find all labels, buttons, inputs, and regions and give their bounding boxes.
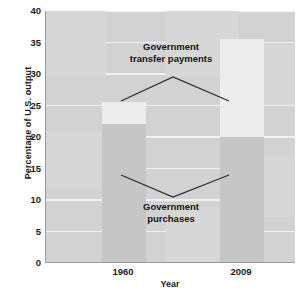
y-axis-tick-5: 5: [13, 227, 41, 237]
annotation-transfers-line1: Government: [96, 41, 246, 53]
y-axis-tick-25: 25: [13, 101, 41, 111]
gridline: [46, 11, 295, 12]
y-axis-tick-30: 30: [13, 69, 41, 79]
chart-figure: Percentage of U.S. output 05101520253035…: [0, 0, 305, 296]
annotation-purchases: Government purchases: [96, 201, 246, 225]
bar-segment-1960-government-transfer-payments: [102, 102, 146, 124]
bar-segment-1960-government-purchases: [102, 124, 146, 263]
x-axis-tick-1960: 1960: [93, 266, 153, 277]
annotation-purchases-line2: purchases: [96, 213, 246, 225]
panel-texture-block: [46, 131, 104, 187]
y-axis-tick-0: 0: [13, 258, 41, 268]
y-axis-tick-35: 35: [13, 38, 41, 48]
y-axis-tick-15: 15: [13, 164, 41, 174]
annotation-purchases-line1: Government: [96, 201, 246, 213]
y-axis-tick-40: 40: [13, 6, 41, 16]
x-axis-title: Year: [45, 279, 295, 289]
x-axis-tick-2009: 2009: [211, 266, 271, 277]
bar-segment-2009-government-purchases: [220, 137, 264, 263]
y-axis-tick-20: 20: [13, 132, 41, 142]
y-axis-tick-labels: 0510152025303540: [8, 0, 41, 296]
y-axis-tick-10: 10: [13, 195, 41, 205]
annotation-transfer-payments: Government transfer payments: [96, 41, 246, 65]
plot-area: Government transfer payments Government …: [45, 11, 295, 263]
annotation-transfers-line2: transfer payments: [96, 53, 246, 65]
transfers-leader-line: [121, 77, 229, 101]
